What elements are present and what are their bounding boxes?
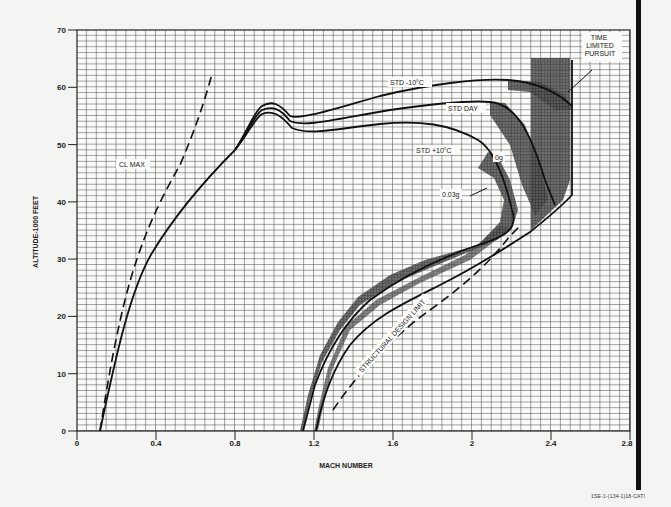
x-tick-0.8: 0.8 — [229, 439, 241, 448]
y-tick-20: 20 — [57, 312, 66, 321]
zero-g-label: 0g — [495, 154, 503, 162]
point03g-label: 0.03g — [442, 191, 460, 199]
x-tick-1.2: 1.2 — [308, 439, 320, 448]
pursuit-label: PURSUIT — [585, 50, 616, 57]
x-tick-1.6: 1.6 — [387, 439, 399, 448]
y-tick-30: 30 — [57, 255, 66, 264]
y-tick-70: 70 — [57, 26, 66, 35]
x-tick-2: 2 — [470, 439, 475, 448]
x-axis: 0 0.4 0.8 1.2 1.6 2 2.4 2.8 MACH NUMBER — [75, 431, 633, 469]
y-tick-0: 0 — [62, 427, 67, 436]
limited-label: LIMITED — [586, 42, 614, 49]
y-tick-10: 10 — [57, 370, 66, 379]
x-tick-2.8: 2.8 — [621, 439, 633, 448]
x-tick-0: 0 — [75, 439, 80, 448]
cl-max-label: CL MAX — [119, 161, 145, 168]
y-tick-60: 60 — [57, 83, 66, 92]
x-tick-2.4: 2.4 — [545, 439, 557, 448]
time-label: TIME — [591, 34, 608, 41]
y-tick-40: 40 — [57, 198, 66, 207]
figure-id-footnote: 1SE-1-(134-1)18-CATI — [591, 493, 645, 499]
std-day-label: STD DAY — [448, 105, 478, 112]
std-minus10-label: STD -10°C — [390, 79, 424, 86]
x-tick-0.4: 0.4 — [150, 439, 162, 448]
page-edge-bar — [636, 0, 641, 490]
y-axis-title: ALTITUDE-1000 FEET — [32, 195, 39, 268]
y-tick-50: 50 — [57, 141, 66, 150]
flight-envelope-chart: 0 10 20 30 40 50 60 70 ALTITUDE-1000 FEE… — [0, 0, 671, 507]
x-axis-title: MACH NUMBER — [319, 462, 373, 469]
std-plus10-label: STD +10°C — [416, 147, 452, 154]
y-axis: 0 10 20 30 40 50 60 70 ALTITUDE-1000 FEE… — [32, 26, 77, 436]
